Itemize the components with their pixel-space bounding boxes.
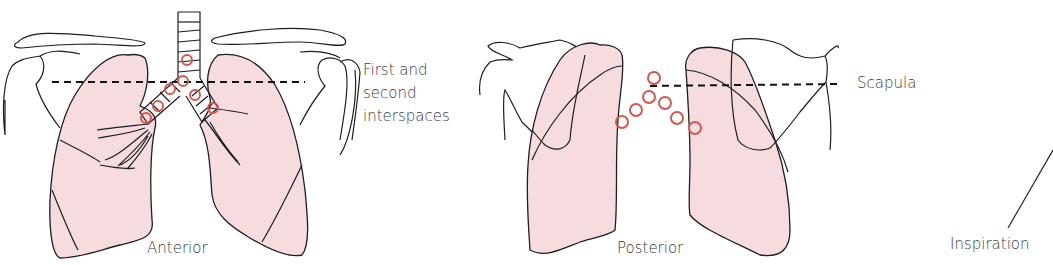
inspiration-pointer-line: [1008, 150, 1053, 228]
label-inspiration: Inspiration: [950, 234, 1030, 254]
label-posterior: Posterior: [617, 238, 683, 258]
lung-auscultation-diagram: [0, 0, 1053, 265]
posterior-left-lung: [527, 43, 623, 253]
posterior-right-lung: [686, 47, 790, 255]
label-interspaces-line2: second: [363, 83, 417, 103]
anterior-right-lung: [50, 54, 156, 258]
label-interspaces-line1: First and: [363, 60, 428, 80]
right-clavicle: [212, 28, 346, 45]
label-anterior: Anterior: [147, 238, 208, 258]
bronchus-rings: [150, 82, 212, 114]
anterior-view: [3, 12, 360, 258]
label-scapula: Scapula: [857, 73, 916, 93]
anterior-left-lung: [200, 54, 308, 255]
inspiration-view: [1008, 150, 1053, 228]
right-shoulder: [300, 51, 356, 155]
posterior-view: [479, 39, 840, 256]
left-clavicle: [15, 33, 145, 48]
label-interspaces-line3: interspaces: [363, 106, 450, 126]
